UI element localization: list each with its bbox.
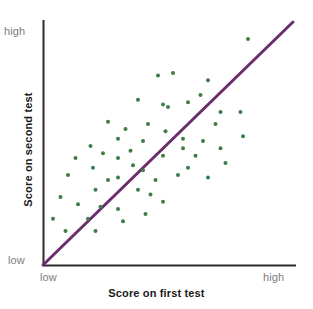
data-point xyxy=(166,105,170,109)
data-point xyxy=(141,139,145,143)
data-point xyxy=(176,173,180,177)
data-point xyxy=(201,139,205,143)
data-point xyxy=(106,120,110,124)
data-point xyxy=(219,110,223,114)
y-axis-title: Score on second test xyxy=(23,70,34,230)
data-point xyxy=(141,168,145,172)
x-axis-tick-low: low xyxy=(40,272,57,283)
data-point xyxy=(224,161,228,165)
plot-canvas xyxy=(0,0,313,309)
data-point xyxy=(131,163,135,167)
data-point xyxy=(94,188,98,192)
data-point xyxy=(246,37,250,41)
y-axis-tick-low: low xyxy=(8,255,25,266)
data-point xyxy=(106,178,110,182)
data-point xyxy=(199,93,203,97)
data-point xyxy=(164,129,168,133)
data-point xyxy=(239,110,243,114)
data-point xyxy=(86,217,90,221)
data-point xyxy=(94,229,98,233)
data-point xyxy=(124,127,128,131)
y-axis-tick-high: high xyxy=(4,26,25,37)
reference-line xyxy=(43,22,293,265)
data-point xyxy=(161,154,165,158)
data-point xyxy=(186,100,190,104)
data-point xyxy=(161,103,165,107)
data-point xyxy=(206,78,210,82)
data-point xyxy=(194,154,198,158)
data-point xyxy=(156,73,160,77)
data-point xyxy=(146,122,150,126)
data-point xyxy=(214,122,218,126)
data-point xyxy=(91,166,95,170)
data-point xyxy=(66,173,70,177)
data-point xyxy=(181,137,185,141)
scatter-plot-figure: high low low high Score on first test Sc… xyxy=(0,0,313,309)
data-point xyxy=(241,134,245,138)
data-point xyxy=(51,217,55,221)
data-point xyxy=(59,195,63,199)
data-point xyxy=(149,193,153,197)
data-point xyxy=(116,137,120,141)
data-point xyxy=(161,200,165,204)
data-point xyxy=(144,212,148,216)
data-point xyxy=(154,178,158,182)
data-point xyxy=(206,176,210,180)
data-points-group xyxy=(51,37,250,233)
data-point xyxy=(136,98,140,102)
data-point xyxy=(171,71,175,75)
data-point xyxy=(136,188,140,192)
x-axis-title: Score on first test xyxy=(0,288,313,299)
data-point xyxy=(116,156,120,160)
data-point xyxy=(99,205,103,209)
data-point xyxy=(76,202,80,206)
data-point xyxy=(89,144,93,148)
data-point xyxy=(116,176,120,180)
data-point xyxy=(116,207,120,211)
data-point xyxy=(101,151,105,155)
data-point xyxy=(186,166,190,170)
data-point xyxy=(64,229,68,233)
data-point xyxy=(129,149,133,153)
data-point xyxy=(181,146,185,150)
data-point xyxy=(121,219,125,223)
x-axis-tick-high: high xyxy=(263,272,284,283)
data-point xyxy=(219,146,223,150)
data-point xyxy=(74,156,78,160)
